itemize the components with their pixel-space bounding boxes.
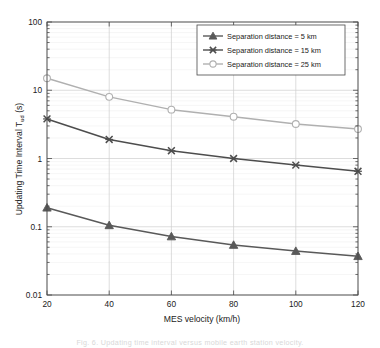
legend-label: Separation distance = 5 km (227, 32, 317, 41)
y-tick-label: 10 (33, 85, 43, 95)
legend-label: Separation distance = 15 km (227, 46, 321, 55)
x-tick-label: 20 (42, 299, 52, 309)
y-tick-label: 100 (28, 17, 42, 27)
data-point-marker (210, 61, 216, 67)
data-point-marker (292, 121, 299, 128)
y-axis-title: Updating Time Interval Tud (s) (14, 103, 25, 215)
x-tick-label: 120 (351, 299, 365, 309)
figure-caption: Fig. 6. Updating time interval versus mo… (0, 338, 380, 347)
y-tick-label: 0.01 (26, 290, 43, 300)
x-axis-title: MES velocity (km/h) (164, 314, 241, 324)
svg-text:MES velocity (km/h): MES velocity (km/h) (164, 314, 241, 324)
x-tick-label: 80 (229, 299, 239, 309)
svg-text:Updating Time Interval Tud (s: Updating Time Interval Tud (s) (14, 103, 25, 215)
data-point-marker (230, 113, 237, 120)
legend-label: Separation distance = 25 km (227, 60, 321, 69)
data-point-marker (106, 93, 113, 100)
figure-container: 0.010.111010020406080100120 MES velocity… (0, 0, 380, 348)
chart-legend[interactable]: Separation distance = 5 kmSeparation dis… (197, 25, 345, 75)
data-point-marker (168, 106, 175, 113)
x-tick-label: 60 (167, 299, 177, 309)
x-tick-label: 40 (105, 299, 115, 309)
y-tick-label: 0.1 (30, 222, 42, 232)
y-tick-label: 1 (37, 154, 42, 164)
chart-canvas: 0.010.111010020406080100120 MES velocity… (0, 0, 380, 348)
x-tick-label: 100 (289, 299, 303, 309)
